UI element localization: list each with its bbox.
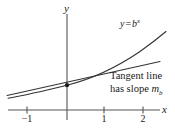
tangent-annotation: Tangent line has slope mb: [110, 69, 163, 95]
tangent-annotation-line1: Tangent line: [110, 70, 162, 81]
slope-subscript: b: [159, 89, 163, 97]
x-tick-label-2: 2: [135, 113, 151, 124]
x-tick-label-neg1: −1: [19, 113, 35, 124]
curve-equation-exponent: x: [137, 17, 140, 25]
curve-equation-label: y=bx: [120, 19, 140, 29]
tangency-point-dot: [65, 83, 69, 87]
y-axis-label: y: [64, 3, 69, 14]
x-tick-label-1: 1: [96, 113, 112, 124]
tangent-annotation-line2: has slope mb: [110, 82, 163, 95]
tangent-annotation-prefix: has slope: [110, 83, 151, 94]
curve-equation-equals: =: [124, 18, 132, 29]
x-axis-label: x: [162, 104, 167, 115]
slope-symbol: m: [151, 83, 159, 94]
exponential-tangent-figure: [0, 0, 175, 129]
